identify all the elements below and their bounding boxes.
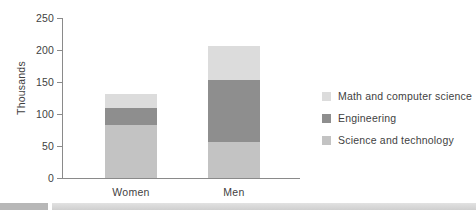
y-tick-label: 100: [20, 109, 54, 119]
y-tick-label: 0: [20, 173, 54, 183]
legend-label: Science and technology: [338, 132, 454, 148]
bar-segment: [208, 46, 260, 81]
legend-swatch: [322, 114, 331, 123]
legend-item: Engineering: [322, 110, 472, 132]
legend-item: Science and technology: [322, 132, 472, 154]
plot-area: [62, 18, 300, 178]
legend-swatch: [322, 92, 331, 101]
y-axis-title: Thousands: [15, 43, 27, 133]
stacked-bar-chart: Thousands 250200150100500 WomenMen Math …: [0, 0, 476, 215]
x-axis-line: [62, 178, 300, 179]
x-tick-label: Women: [86, 186, 176, 198]
x-tick-label: Men: [189, 186, 279, 198]
legend-label: Engineering: [338, 110, 396, 126]
y-tick-label: 150: [20, 77, 54, 87]
footer-rule: [52, 203, 476, 210]
chart-legend: Math and computer scienceEngineeringScie…: [322, 88, 472, 154]
y-tick-label: 200: [20, 45, 54, 55]
bar-segment: [208, 142, 260, 178]
bar-women: [105, 94, 157, 178]
bar-segment: [105, 125, 157, 178]
bar-segment: [105, 94, 157, 108]
legend-swatch: [322, 136, 331, 145]
footer-accent-block: [0, 203, 48, 210]
bar-men: [208, 46, 260, 178]
y-tick-label: 50: [20, 141, 54, 151]
bar-segment: [208, 80, 260, 142]
legend-label: Math and computer science: [338, 88, 472, 104]
y-tick-label: 250: [20, 13, 54, 23]
legend-item: Math and computer science: [322, 88, 472, 110]
bar-segment: [105, 108, 157, 125]
